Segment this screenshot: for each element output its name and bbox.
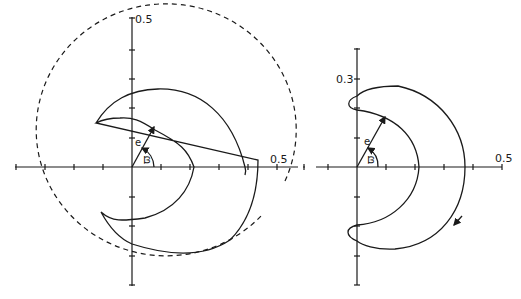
direction-arrow-icon xyxy=(454,216,462,225)
right-x-axis-label: 0.5 xyxy=(495,152,513,165)
left-crescent-curve xyxy=(96,89,258,253)
left-y-axis-label: 0.5 xyxy=(135,13,153,26)
diagram-canvas: 0.5 0.5 e ϖ xyxy=(0,0,521,299)
right-axes xyxy=(303,48,502,285)
right-panel: 0.3 0.5 e ϖ xyxy=(303,48,513,285)
left-x-axis-label: 0.5 xyxy=(270,153,288,166)
left-dashed-circle xyxy=(36,4,296,256)
right-vector-label: e xyxy=(364,136,370,147)
left-panel: 0.5 0.5 e ϖ xyxy=(15,4,298,286)
left-angle-label: ϖ xyxy=(141,155,152,164)
right-angle-label: ϖ xyxy=(365,155,376,164)
left-axes xyxy=(15,17,298,286)
right-y-axis-label: 0.3 xyxy=(336,73,354,86)
left-vector-label: e xyxy=(135,137,141,148)
